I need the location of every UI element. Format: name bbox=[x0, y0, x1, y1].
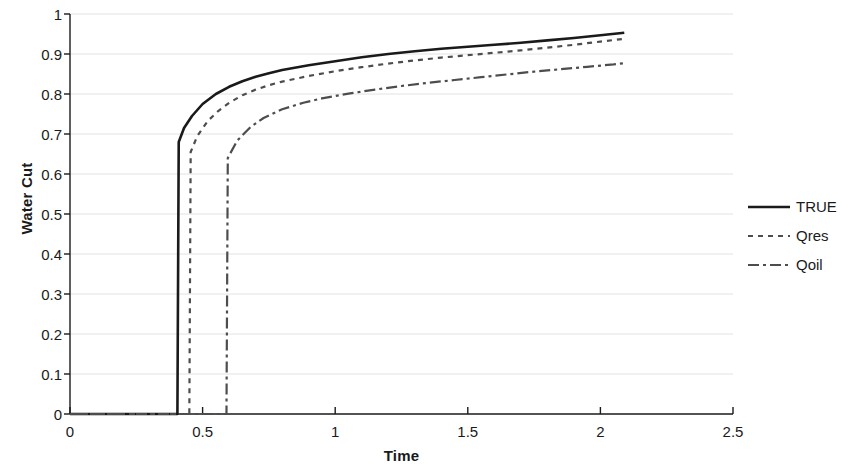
legend-line-dashdot bbox=[748, 259, 790, 271]
legend-item-qres: Qres bbox=[748, 221, 848, 250]
legend-item-qoil: Qoil bbox=[748, 250, 848, 279]
legend: TRUE Qres Qoil bbox=[748, 192, 848, 279]
series-line-qres bbox=[70, 39, 624, 414]
legend-swatch-qres bbox=[748, 230, 790, 242]
legend-item-true: TRUE bbox=[748, 192, 848, 221]
legend-swatch-qoil bbox=[748, 259, 790, 271]
plot-area bbox=[0, 0, 848, 472]
legend-line-solid bbox=[748, 201, 790, 213]
series-group bbox=[70, 33, 624, 414]
series-line-true bbox=[70, 33, 624, 414]
legend-label-true: TRUE bbox=[796, 199, 837, 214]
legend-line-dashed bbox=[748, 230, 790, 242]
chart-figure: Water Cut 1 0.9 0.8 0.7 0.6 0.5 0.4 0.3 … bbox=[0, 0, 848, 472]
legend-label-qres: Qres bbox=[796, 228, 829, 243]
series-line-qoil bbox=[70, 63, 624, 414]
legend-swatch-true bbox=[748, 201, 790, 213]
gridlines bbox=[70, 14, 733, 374]
legend-label-qoil: Qoil bbox=[796, 257, 823, 272]
